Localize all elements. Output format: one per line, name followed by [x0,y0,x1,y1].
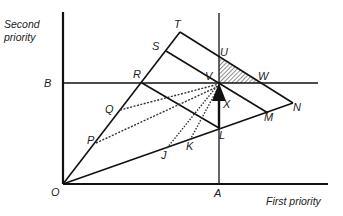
label-b: B [44,77,51,89]
y-axis-label-line2: priority [3,31,36,43]
label-x: X [222,98,231,110]
lower-ray [63,103,293,184]
dashed-q-v [120,84,219,110]
dashed-p-v [96,86,219,143]
priority-diagram: Second priority First priority O A B T S… [0,0,343,216]
label-w: W [258,70,270,82]
line-t-n [180,32,293,103]
label-n: N [293,101,301,113]
label-o: O [51,186,60,198]
label-u: U [220,46,228,58]
label-s: S [152,40,160,52]
label-t: T [174,18,182,30]
label-a: A [213,187,221,199]
label-k: K [186,140,194,152]
label-m: M [264,111,274,123]
label-q: Q [105,103,114,115]
x-axis-label: First priority [266,195,322,207]
upper-ray [63,32,180,184]
label-r: R [133,68,141,80]
label-l: L [219,129,225,141]
line-r-l [142,83,219,128]
label-p: P [87,134,95,146]
y-axis-label-line1: Second [4,18,41,30]
label-j: J [160,149,167,161]
